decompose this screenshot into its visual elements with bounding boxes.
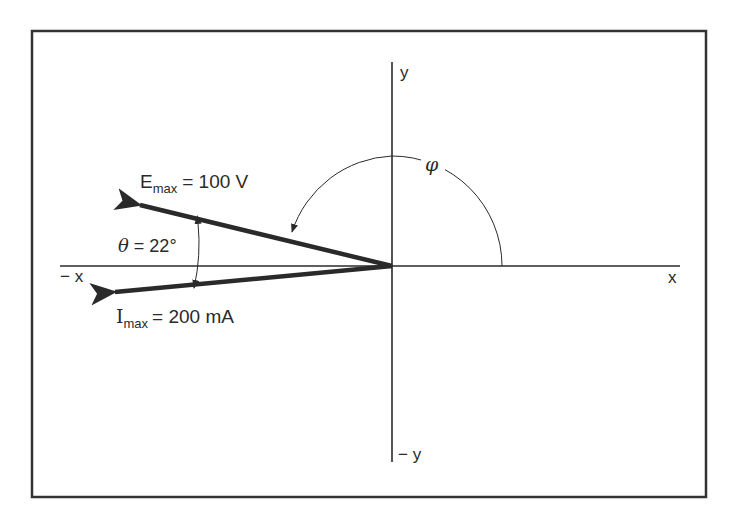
phasor-diagram: y − y x − x φ Emax= 100 V Imax= 200 mA θ…: [0, 0, 729, 525]
y-axis-negative-label: − y: [398, 445, 422, 464]
diagram-frame: [32, 31, 706, 497]
e-subscript: max: [153, 181, 178, 196]
x-axis-negative-label: − x: [60, 267, 84, 286]
theta-value: = 22°: [134, 236, 177, 256]
phi-label: φ: [425, 153, 439, 175]
e-symbol: E: [140, 171, 153, 192]
e-value: = 100 V: [182, 171, 248, 192]
i-phasor-label: Imax= 200 mA: [116, 305, 234, 331]
i-symbol: I: [116, 305, 124, 327]
e-phasor-label: Emax= 100 V: [140, 171, 249, 196]
x-axis-positive-label: x: [668, 268, 677, 287]
i-subscript: max: [124, 316, 149, 331]
e-phasor-arrow: [140, 205, 392, 266]
i-phasor-arrow: [115, 266, 392, 292]
theta-label: θ= 22°: [118, 235, 177, 256]
y-axis-positive-label: y: [400, 63, 409, 82]
theta-symbol: θ: [118, 235, 129, 256]
theta-angle-arc: [194, 223, 199, 288]
i-value: = 200 mA: [152, 306, 234, 327]
